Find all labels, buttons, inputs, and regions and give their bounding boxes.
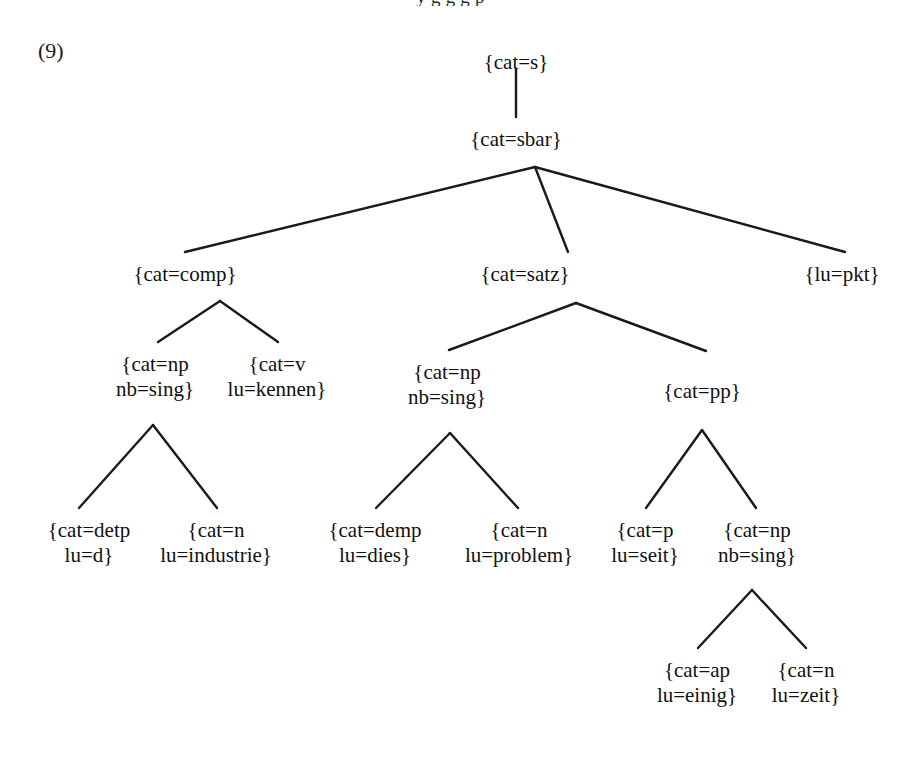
tree-node-ap: {cat=aplu=einig} — [657, 658, 737, 708]
tree-node-comp-line1: {cat=comp} — [133, 262, 236, 286]
tree-node-n2: {cat=nlu=problem} — [465, 518, 573, 568]
tree-node-demp-line1: {cat=demp — [328, 518, 421, 542]
example-number-label: (9) — [38, 38, 64, 64]
tree-node-comp: {cat=comp} — [133, 262, 236, 287]
tree-node-v-line2: lu=kennen} — [228, 377, 327, 402]
tree-node-np3-line2: nb=sing} — [718, 543, 796, 568]
tree-node-np3-line1: {cat=np — [723, 518, 790, 542]
tree-node-pp-line1: {cat=pp} — [663, 379, 740, 403]
tree-node-sbar: {cat=sbar} — [470, 127, 561, 152]
tree-edge-comp-to-v — [220, 301, 278, 342]
cropped-body-text-line: y g g g p — [0, 0, 901, 6]
tree-node-n1: {cat=nlu=industrie} — [160, 518, 272, 568]
tree-node-ap-line2: lu=einig} — [657, 683, 737, 708]
tree-node-n1-line1: {cat=n — [188, 518, 245, 542]
tree-node-detp-line2: lu=d} — [48, 543, 131, 568]
tree-node-p-line2: lu=seit} — [611, 543, 678, 568]
tree-node-s: {cat=s} — [484, 50, 549, 75]
tree-edge-satz-to-pp — [576, 303, 706, 351]
tree-node-satz-line1: {cat=satz} — [480, 262, 569, 286]
tree-node-n3-line2: lu=zeit} — [772, 683, 841, 708]
tree-edge-pp-to-p — [646, 430, 702, 508]
tree-node-sbar-line1: {cat=sbar} — [470, 127, 561, 151]
tree-node-n2-line1: {cat=n — [491, 518, 548, 542]
tree-node-np2: {cat=npnb=sing} — [408, 360, 486, 410]
tree-edge-sbar-to-comp — [185, 167, 535, 252]
tree-edge-satz-to-np2 — [449, 303, 576, 350]
tree-edge-np1-to-detp — [79, 425, 153, 508]
tree-node-demp: {cat=demplu=dies} — [328, 518, 421, 568]
tree-node-detp-line1: {cat=detp — [48, 518, 131, 542]
tree-node-n3: {cat=nlu=zeit} — [772, 658, 841, 708]
tree-edge-pp-to-np3 — [702, 430, 756, 508]
tree-node-n2-line2: lu=problem} — [465, 543, 573, 568]
tree-node-pkt: {lu=pkt} — [804, 262, 879, 287]
tree-edge-np2-to-n2 — [450, 433, 518, 508]
tree-node-ap-line1: {cat=ap — [664, 658, 730, 682]
tree-node-detp: {cat=detplu=d} — [48, 518, 131, 568]
tree-node-np2-line1: {cat=np — [413, 360, 480, 384]
tree-node-np1-line2: nb=sing} — [116, 377, 194, 402]
tree-node-v-line1: {cat=v — [249, 352, 306, 376]
tree-node-p-line1: {cat=p — [617, 518, 674, 542]
syntax-tree-figure: y g g g p (9) {cat=s}{cat=sbar}{cat=comp… — [0, 0, 901, 776]
tree-node-demp-line2: lu=dies} — [328, 543, 421, 568]
tree-node-pkt-line1: {lu=pkt} — [804, 262, 879, 286]
tree-edge-sbar-to-pkt — [535, 167, 845, 252]
tree-node-n1-line2: lu=industrie} — [160, 543, 272, 568]
tree-edge-np3-to-ap — [698, 590, 752, 648]
tree-edge-comp-to-np1 — [158, 301, 220, 342]
tree-edge-np3-to-n3 — [752, 590, 806, 648]
tree-node-np2-line2: nb=sing} — [408, 385, 486, 410]
tree-node-np1-line1: {cat=np — [121, 352, 188, 376]
tree-node-np1: {cat=npnb=sing} — [116, 352, 194, 402]
tree-node-s-line1: {cat=s} — [484, 50, 549, 74]
tree-edge-np2-to-demp — [376, 433, 450, 508]
tree-node-pp: {cat=pp} — [663, 379, 740, 404]
tree-node-np3: {cat=npnb=sing} — [718, 518, 796, 568]
tree-node-v: {cat=vlu=kennen} — [228, 352, 327, 402]
tree-node-satz: {cat=satz} — [480, 262, 569, 287]
tree-edge-sbar-to-satz — [535, 167, 568, 252]
tree-edge-np1-to-n1 — [153, 425, 217, 508]
tree-node-p: {cat=plu=seit} — [611, 518, 678, 568]
tree-node-n3-line1: {cat=n — [778, 658, 835, 682]
